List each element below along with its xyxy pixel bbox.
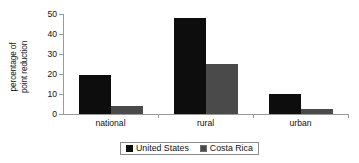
x-axis-label-urban: urban (290, 118, 312, 128)
y-axis-title-line-2: point reduction (20, 17, 31, 117)
legend-label-costa-rica: Costa Rica (210, 143, 253, 153)
legend-label-united-states: United States (136, 143, 189, 153)
x-tick-mark (253, 114, 254, 118)
x-axis-label-national: national (95, 118, 125, 128)
gray-square-icon (200, 145, 207, 152)
bar-rural-costa-rica (206, 64, 238, 114)
y-axis-title: percentage of point reduction (9, 17, 39, 117)
bar-chart: percentage of point reduction 0102030405… (0, 0, 359, 163)
x-axis-label-rural: rural (197, 118, 214, 128)
y-tick-mark (59, 114, 63, 115)
x-axis-line (63, 114, 348, 115)
chart-legend: United States Costa Rica (120, 142, 259, 155)
bar-national-united-states (79, 75, 111, 114)
y-tick-mark (59, 74, 63, 75)
y-tick-label: 10 (47, 89, 57, 99)
black-square-icon (126, 145, 133, 152)
legend-item-costa-rica: Costa Rica (200, 143, 253, 153)
legend-item-united-states: United States (126, 143, 189, 153)
y-tick-label: 0 (52, 109, 57, 119)
y-tick-mark (59, 94, 63, 95)
y-tick-label: 20 (47, 69, 57, 79)
bar-rural-united-states (174, 18, 206, 114)
y-axis-line (63, 14, 64, 114)
bar-urban-costa-rica (301, 109, 333, 114)
plot-area: 01020304050 nationalruralurban (63, 14, 348, 114)
y-tick-mark (59, 54, 63, 55)
y-tick-label: 30 (47, 49, 57, 59)
y-tick-label: 50 (47, 9, 57, 19)
y-tick-label: 40 (47, 29, 57, 39)
y-tick-mark (59, 14, 63, 15)
bar-urban-united-states (269, 94, 301, 114)
y-axis-title-line-1: percentage of (9, 17, 20, 117)
y-tick-mark (59, 34, 63, 35)
x-tick-mark (348, 114, 349, 118)
bar-national-costa-rica (111, 106, 143, 114)
x-tick-mark (158, 114, 159, 118)
